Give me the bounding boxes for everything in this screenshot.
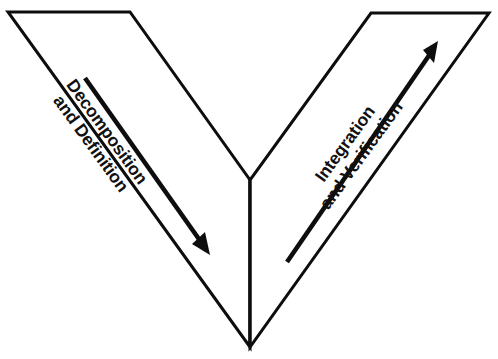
v-model-svg-canvas [0,0,498,359]
v-model-diagram: Decomposition and Definition Integration… [0,0,498,359]
right-branch-shape [250,13,489,347]
left-branch-shape [8,12,250,347]
